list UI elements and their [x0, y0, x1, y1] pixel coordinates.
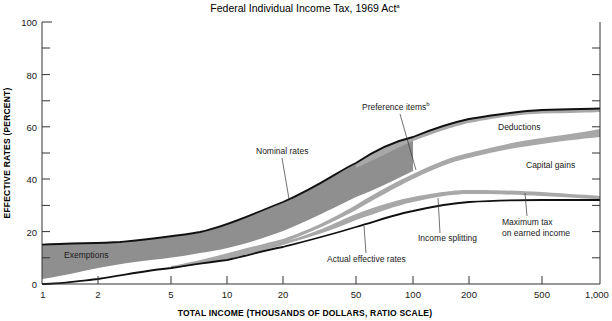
y-ticks-right	[592, 48, 600, 258]
svg-text:60: 60	[26, 122, 37, 133]
annotation-deductions: Deductions	[498, 122, 541, 132]
svg-text:20: 20	[26, 227, 37, 238]
annotation-maximum-tax: Maximum tax	[502, 217, 553, 227]
leader-nominal-rates	[282, 158, 289, 199]
svg-text:500: 500	[534, 289, 550, 300]
x-tick-labels: 1 2 5 10 20 50 100 200 500 1,000	[40, 289, 609, 300]
x-ticks	[98, 276, 542, 284]
chart-title: Federal Individual Income Tax, 1969 Acta	[210, 2, 400, 14]
svg-text:80: 80	[26, 70, 37, 81]
y-axis-title: EFFECTIVE RATES (PERCENT)	[2, 88, 12, 219]
annotation-maximum-tax-line2: on earned income	[502, 228, 570, 238]
annotation-capital-gains: Capital gains	[526, 160, 575, 170]
svg-text:20: 20	[278, 289, 289, 300]
svg-text:0: 0	[32, 279, 37, 290]
svg-text:2: 2	[95, 289, 100, 300]
leader-maximum-tax	[525, 193, 527, 216]
annotation-nominal-rates: Nominal rates	[256, 146, 308, 156]
svg-text:40: 40	[26, 174, 37, 185]
svg-text:10: 10	[222, 289, 233, 300]
svg-text:1: 1	[40, 289, 45, 300]
svg-text:50: 50	[351, 289, 362, 300]
svg-text:100: 100	[21, 17, 37, 28]
annotation-preference-items: Preference itemsb	[362, 101, 430, 112]
annotation-actual-effective-rates: Actual effective rates	[327, 254, 406, 264]
y-ticks-left	[42, 48, 50, 258]
chart: Federal Individual Income Tax, 1969 Acta	[0, 0, 612, 321]
leader-actual-effective-rates	[364, 226, 366, 253]
svg-text:200: 200	[461, 289, 477, 300]
svg-text:1,000: 1,000	[585, 289, 609, 300]
svg-text:100: 100	[405, 289, 421, 300]
annotation-income-splitting: Income splitting	[418, 233, 477, 243]
y-tick-labels: 0 20 40 60 80 100	[21, 17, 37, 290]
annotation-exemptions: Exemptions	[64, 250, 108, 260]
x-axis-title: TOTAL INCOME (THOUSANDS OF DOLLARS, RATI…	[178, 308, 433, 318]
leader-income-splitting	[438, 198, 440, 233]
svg-text:5: 5	[168, 289, 173, 300]
